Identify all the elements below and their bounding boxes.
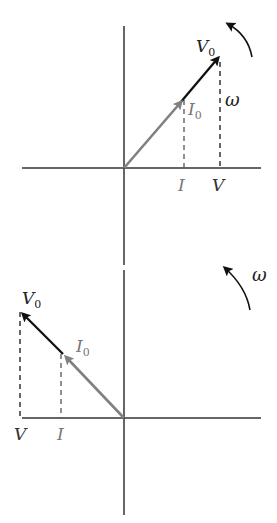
rotation-arrow-icon xyxy=(225,268,250,310)
svg-text:I0: I0 xyxy=(187,99,202,122)
voltage-phasor-arrow xyxy=(23,314,63,354)
omega-label: ω xyxy=(252,264,267,285)
svg-text:I0: I0 xyxy=(75,336,90,359)
current-phasor-arrow xyxy=(124,102,181,168)
phasor-diagrams: V0 I0 ω I V V0 I0 ω V I xyxy=(0,0,277,523)
voltage-phasor-arrow xyxy=(180,58,218,103)
rotation-arrow-icon xyxy=(228,24,252,57)
current-phasor-arrow xyxy=(66,357,124,418)
diagram-bottom: V0 I0 ω V I xyxy=(14,264,267,515)
diagram-top: V0 I0 ω I V xyxy=(22,24,261,265)
i-axis-label: I xyxy=(177,175,185,195)
svg-text:V0: V0 xyxy=(196,36,215,59)
svg-text:V0: V0 xyxy=(22,288,41,311)
v-axis-label: V xyxy=(212,175,226,195)
i-axis-label: I xyxy=(56,424,64,444)
omega-label: ω xyxy=(225,89,240,110)
v-axis-label: V xyxy=(14,424,28,444)
